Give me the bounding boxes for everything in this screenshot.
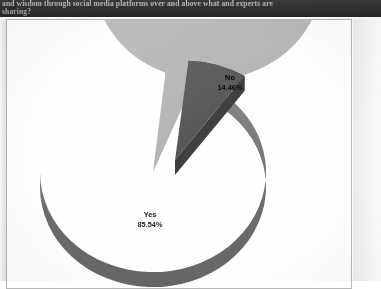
slice-label-yes-name: Yes [120,210,180,220]
question-line-2: sharing? [0,8,381,16]
slice-label-yes: Yes 85.54% [120,210,180,229]
pie-chart: No 14.46% Yes 85.54% [7,20,351,288]
slice-label-no-name: No [207,73,253,83]
slice-label-no: No 14.46% [207,73,253,92]
page-right-margin [353,19,381,281]
question-line-1: and wisdom through social media platform… [0,0,381,8]
pie-chart-svg [7,20,351,288]
slice-label-yes-value: 85.54% [120,220,180,230]
chart-frame: No 14.46% Yes 85.54% [6,19,352,289]
question-text-band: and wisdom through social media platform… [0,0,381,17]
slice-label-no-value: 14.46% [207,83,253,93]
